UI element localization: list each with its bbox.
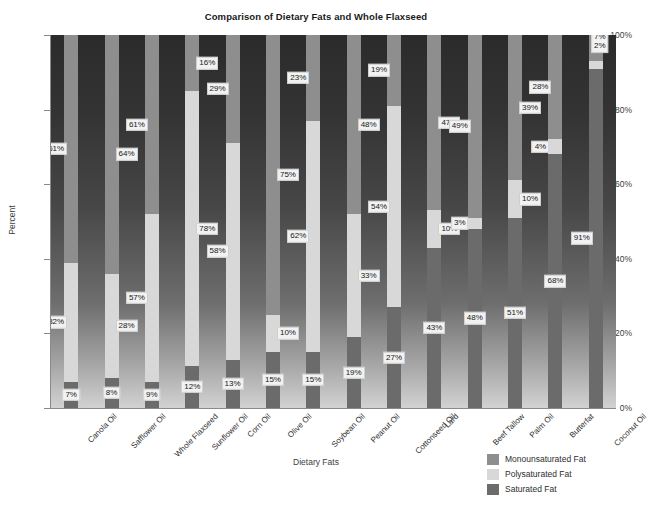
x-axis-tick-label: Corn Oil: [245, 412, 272, 439]
bar-group[interactable]: [508, 35, 522, 408]
bar-group[interactable]: [427, 35, 441, 408]
y-axis-tick-mark: [44, 408, 50, 409]
bar-value-label: 57%: [126, 292, 148, 304]
bar-value-label: 48%: [358, 118, 380, 130]
legend-label: Saturated Fat: [505, 484, 557, 494]
bar-value-text: 2%: [594, 42, 606, 51]
bar-value-label: 39%: [519, 102, 541, 114]
bar-value-label: 28%: [529, 81, 551, 93]
bar-segment[interactable]: [589, 61, 603, 68]
legend-color-swatch: [487, 469, 499, 480]
bar-value-label: 7%: [62, 389, 80, 401]
bar-value-label: 4%: [532, 141, 550, 153]
bar-group[interactable]: [347, 35, 361, 408]
bar-group[interactable]: [468, 35, 482, 408]
x-axis-tick-label: Olive Oil: [286, 412, 314, 440]
bar-value-label: 23%: [287, 72, 309, 84]
bar-group[interactable]: [266, 35, 280, 408]
bar-value-label: 54%: [368, 200, 390, 212]
bar-value-label: 61%: [126, 118, 148, 130]
bar-value-label: 29%: [207, 83, 229, 95]
bar-value-label: 43%: [423, 322, 445, 334]
bar-value-label: 62%: [287, 230, 309, 242]
x-axis-tick-label: Whole Flaxseed: [173, 412, 220, 459]
chart-title: Comparison of Dietary Fats and Whole Fla…: [0, 11, 632, 22]
y-axis-tick-mark: [44, 35, 50, 36]
x-axis-tick-label: Lard: [443, 412, 461, 430]
legend-color-swatch: [487, 454, 499, 465]
legend-label: Polysaturated Fat: [505, 469, 572, 479]
bar-group[interactable]: [145, 35, 159, 408]
bar-segment[interactable]: [468, 218, 482, 229]
x-axis-tick-label: Palm Oil: [528, 412, 556, 440]
bar-value-label: 12%: [181, 381, 203, 393]
legend-item[interactable]: Monounsaturated Fat: [487, 452, 586, 466]
bar-value-label: 68%: [544, 275, 566, 287]
bar-value-label: 15%: [302, 374, 324, 386]
bar-value-label: 9%: [143, 389, 161, 401]
y-axis-tick-mark: [44, 259, 50, 260]
bar-value-label: 58%: [207, 245, 229, 257]
bar-value-label: 51%: [504, 307, 526, 319]
bar-segment[interactable]: [548, 139, 562, 154]
x-axis-tick-label: Canola Oil: [86, 412, 119, 445]
bar-value-label: 8%: [103, 387, 121, 399]
x-axis-line: [50, 408, 616, 409]
bar-value-label: 32%: [51, 316, 67, 328]
legend-item[interactable]: Polysaturated Fat: [487, 467, 586, 481]
x-axis-tick-label: Soybean Oil: [330, 412, 367, 449]
bar-value-label: 91%: [571, 232, 593, 244]
bar-value-label: 13%: [222, 378, 244, 390]
bar-value-label: 16%: [196, 57, 218, 69]
bar-value-label: 27%: [383, 351, 405, 363]
y-axis-title: Percent: [7, 190, 17, 250]
legend-color-swatch: [487, 484, 499, 495]
bar-value-label: 64%: [116, 148, 138, 160]
bar-value-label: 33%: [358, 269, 380, 281]
y-axis-tick-mark: [44, 333, 50, 334]
x-axis-tick-label: Butterfat: [568, 412, 596, 440]
plot-area: 61%32%7%64%28%8%61%57%9%16%78%12%29%58%1…: [51, 35, 616, 408]
bar-value-label: 75%: [277, 169, 299, 181]
bar-value-label: 7%2%: [591, 35, 609, 53]
legend-label: Monounsaturated Fat: [505, 454, 586, 464]
bar-group[interactable]: [306, 35, 320, 408]
chart-legend: Monounsaturated FatPolysaturated FatSatu…: [487, 452, 586, 497]
bar-value-label: 28%: [116, 320, 138, 332]
bar-value-label: 48%: [464, 312, 486, 324]
x-axis-tick-label: Beef Tallow: [491, 412, 526, 447]
bar-value-label: 10%: [277, 327, 299, 339]
legend-item[interactable]: Saturated Fat: [487, 482, 586, 496]
bar-value-label: 19%: [368, 64, 390, 76]
bar-value-label: 49%: [449, 120, 471, 132]
y-axis-tick-mark: [44, 184, 50, 185]
bar-value-label: 19%: [343, 366, 365, 378]
bar-group[interactable]: [589, 35, 603, 408]
bar-value-label: 61%: [51, 143, 67, 155]
bar-value-label: 3%: [451, 217, 469, 229]
bar-group[interactable]: [64, 35, 78, 408]
bar-group[interactable]: [105, 35, 119, 408]
bar-value-label: 78%: [196, 222, 218, 234]
x-axis-tick-label: Coconut Oil: [612, 412, 648, 448]
x-axis-tick-label: Safflower Oil: [129, 412, 167, 450]
bar-value-label: 10%: [519, 193, 541, 205]
y-axis-tick-mark: [44, 110, 50, 111]
x-axis-tick-label: Peanut Oil: [369, 412, 402, 445]
bar-value-label: 15%: [262, 374, 284, 386]
